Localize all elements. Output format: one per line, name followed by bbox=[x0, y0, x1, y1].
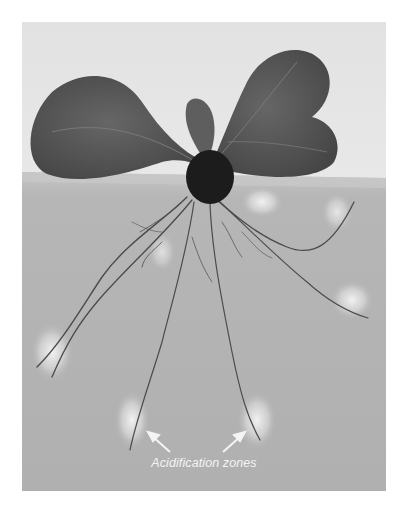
seedling-photo: Acidification zones bbox=[22, 22, 386, 491]
annotation-label: Acidification zones bbox=[22, 456, 386, 470]
seed bbox=[186, 150, 234, 204]
